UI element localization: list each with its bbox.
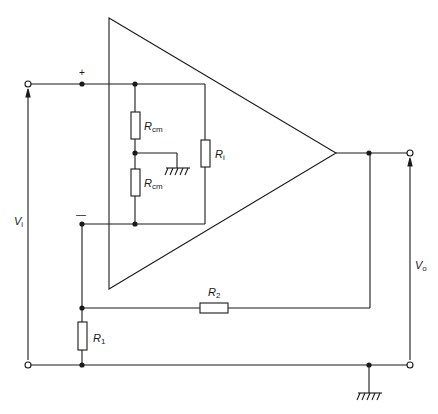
circuit-diagram: + — Rcm Rcm Ri R1 R2 Vi Vo (0, 0, 438, 414)
vo-arrow-icon (408, 158, 412, 166)
r2-resistor (200, 303, 228, 313)
vo-label: Vo (415, 260, 427, 273)
rcm-upper-resistor (131, 112, 140, 139)
vi-arrow-icon (26, 89, 30, 97)
schematic (0, 0, 438, 414)
rcm-upper-label: Rcm (144, 121, 163, 134)
ri-label: Ri (215, 149, 225, 162)
r1-label: R1 (93, 333, 105, 346)
rcm-lower-resistor (131, 169, 140, 196)
output-terminal-top (407, 150, 413, 156)
ground-icon-internal (165, 168, 190, 175)
input-terminal-top (25, 81, 31, 87)
plus-sign: + (79, 68, 85, 78)
vi-label: Vi (14, 216, 23, 229)
r1-resistor (78, 322, 87, 350)
minus-sign: — (76, 210, 86, 220)
input-terminal-bottom (25, 362, 31, 368)
output-terminal-bottom (407, 362, 413, 368)
ground-icon (357, 393, 382, 400)
ri-resistor (201, 140, 210, 167)
r2-label: R2 (208, 287, 220, 300)
rcm-lower-label: Rcm (144, 178, 163, 191)
